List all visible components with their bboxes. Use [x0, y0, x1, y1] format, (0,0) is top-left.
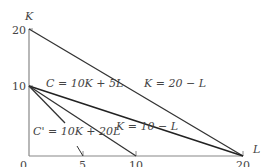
x-tick-10: 10 [129, 160, 143, 167]
y-tick-20: 20 [12, 25, 26, 36]
chart-canvas [0, 0, 268, 167]
y-tick-10: 10 [12, 81, 26, 92]
x-tick-0: 0 [20, 160, 27, 167]
y-axis-label: K [25, 11, 33, 22]
label-k-20-minus-l: K = 20 − L [144, 78, 206, 89]
x-tick-5: 5 [79, 160, 86, 167]
label-k-10-minus-l: K = 10 − L [116, 121, 178, 132]
x-tick-20: 20 [236, 160, 250, 167]
label-c-10k-5l: C = 10K + 5L [46, 78, 123, 89]
x-axis-label: L [253, 144, 260, 155]
label-cprime-10k-20l: C' = 10K + 20L [33, 126, 120, 137]
